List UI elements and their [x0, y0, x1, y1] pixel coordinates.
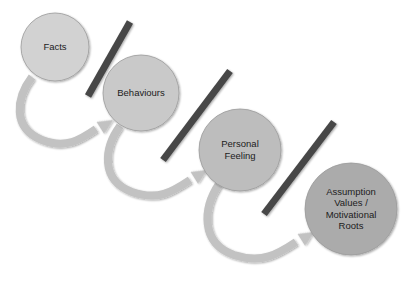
- arrow-facts-to-behaviours: [20, 77, 117, 144]
- node-label-facts: Facts: [43, 41, 66, 52]
- arrow-personal-feeling-to-assumption: [207, 184, 317, 258]
- node-label-personal-feeling: PersonalFeeling: [221, 138, 259, 161]
- node-behaviours[interactable]: Behaviours: [103, 55, 179, 131]
- diagram-canvas: FactsBehavioursPersonalFeelingAssumption…: [0, 0, 414, 282]
- node-label-behaviours: Behaviours: [117, 87, 165, 98]
- node-facts[interactable]: Facts: [21, 13, 89, 81]
- process-flow-diagram: FactsBehavioursPersonalFeelingAssumption…: [0, 0, 414, 282]
- node-assumption-values-motivational-roots[interactable]: AssumptionValues /MotivationalRoots: [305, 163, 397, 255]
- node-personal-feeling[interactable]: PersonalFeeling: [199, 109, 281, 191]
- arrow-behaviours-to-personal-feeling: [108, 126, 211, 196]
